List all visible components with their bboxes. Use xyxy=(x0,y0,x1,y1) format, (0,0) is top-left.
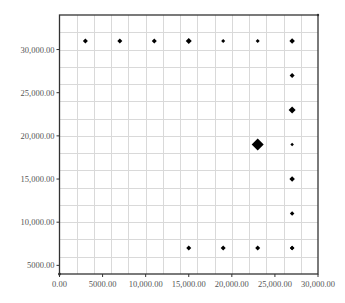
x-tick-label: 15,000.00 xyxy=(172,279,206,289)
diamond-marker xyxy=(289,106,296,113)
diamond-marker xyxy=(290,143,294,147)
diamond-marker xyxy=(255,246,260,251)
y-axis-tick-labels: 5000.0010,000.0015,000.0020,000.0025,000… xyxy=(21,45,55,271)
x-tick-label: 10,000.00 xyxy=(129,279,163,289)
diamond-marker xyxy=(83,38,88,43)
diamond-marker xyxy=(117,38,122,43)
corner-dot xyxy=(317,14,319,16)
diamond-marker xyxy=(252,139,264,151)
diamond-marker xyxy=(290,211,295,216)
diamond-marker xyxy=(221,39,225,43)
data-points xyxy=(83,38,296,251)
x-tick-label: 5000.00 xyxy=(89,279,117,289)
diamond-marker xyxy=(152,38,157,43)
x-tick-label: 30,000.00 xyxy=(301,279,335,289)
x-axis-tick-labels: 0.005000.0010,000.0015,000.0020,000.0025… xyxy=(52,279,335,289)
y-tick-label: 30,000.00 xyxy=(21,45,55,55)
diamond-marker xyxy=(256,39,260,43)
y-tick-label: 25,000.00 xyxy=(21,88,55,98)
diamond-marker xyxy=(221,246,226,251)
diamond-marker xyxy=(186,38,192,44)
scatter-chart: 0.005000.0010,000.0015,000.0020,000.0025… xyxy=(0,0,345,303)
axes xyxy=(57,14,320,277)
y-tick-label: 20,000.00 xyxy=(21,131,55,141)
x-tick-label: 25,000.00 xyxy=(258,279,292,289)
y-tick-label: 5000.00 xyxy=(27,260,55,270)
plot-frame xyxy=(60,15,319,274)
diamond-marker xyxy=(289,176,295,182)
y-tick-label: 10,000.00 xyxy=(21,217,55,227)
x-tick-label: 20,000.00 xyxy=(215,279,249,289)
y-tick-label: 15,000.00 xyxy=(21,174,55,184)
diamond-marker xyxy=(290,246,295,251)
diamond-marker xyxy=(289,38,295,44)
diamond-marker xyxy=(290,73,295,78)
grid-lines xyxy=(60,15,319,274)
diamond-marker xyxy=(186,246,191,251)
x-tick-label: 0.00 xyxy=(52,279,67,289)
